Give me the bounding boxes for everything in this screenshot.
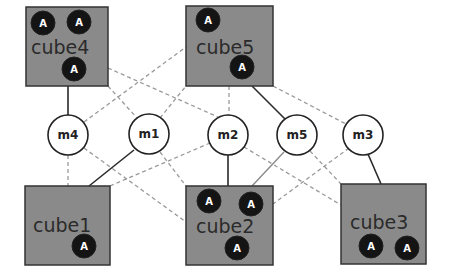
- svg-text:A: A: [75, 17, 83, 28]
- svg-text:A: A: [39, 18, 47, 29]
- agent-icon: A: [196, 8, 220, 32]
- svg-text:A: A: [80, 241, 88, 252]
- svg-text:A: A: [204, 15, 212, 26]
- svg-text:A: A: [403, 243, 411, 254]
- node-m3-label: m3: [353, 128, 374, 142]
- agent-icon: A: [230, 55, 254, 79]
- svg-text:A: A: [205, 196, 213, 207]
- agent-icon: A: [359, 234, 383, 258]
- edge-m1-cube2: [160, 152, 186, 186]
- node-m4-label: m4: [58, 128, 79, 142]
- node-m2[interactable]: m2: [208, 115, 248, 155]
- agent-icon: A: [239, 192, 263, 216]
- cube3-label: cube3: [350, 211, 408, 233]
- edge-m3-cube2: [273, 148, 349, 204]
- svg-text:A: A: [367, 241, 375, 252]
- svg-text:A: A: [70, 64, 78, 75]
- cube2-label: cube2: [196, 215, 254, 237]
- cube5-label: cube5: [196, 36, 254, 58]
- agent-icon: A: [225, 236, 249, 260]
- node-m2-label: m2: [218, 128, 239, 142]
- cube1-label: cube1: [33, 214, 91, 236]
- node-m1[interactable]: m1: [129, 114, 169, 154]
- node-m1-label: m1: [139, 127, 160, 141]
- edge-m5-cube2: [252, 152, 284, 186]
- agent-icon: A: [72, 234, 96, 258]
- cube3[interactable]: cube3 A A: [341, 184, 426, 264]
- agent-icon: A: [197, 189, 221, 213]
- node-m3[interactable]: m3: [343, 115, 383, 155]
- edge-cube4-m1: [108, 86, 137, 118]
- node-m5[interactable]: m5: [277, 115, 317, 155]
- edge-m3-cube3: [368, 154, 381, 184]
- cube4-label: cube4: [31, 36, 89, 58]
- agent-icon: A: [67, 10, 91, 34]
- node-m5-label: m5: [287, 128, 308, 142]
- cube2[interactable]: cube2 A A A: [186, 186, 273, 265]
- edge-m5-cube3: [310, 151, 341, 184]
- agent-icon: A: [31, 11, 55, 35]
- agent-icon: A: [62, 57, 86, 81]
- edge-cube5-m5: [252, 86, 285, 119]
- cube1[interactable]: cube1 A: [25, 186, 110, 265]
- cube5[interactable]: cube5 A A: [186, 6, 273, 86]
- edge-m1-cube5: [160, 86, 186, 118]
- node-m4[interactable]: m4: [48, 115, 88, 155]
- svg-text:A: A: [247, 199, 255, 210]
- agent-icon: A: [395, 236, 419, 260]
- svg-text:A: A: [233, 243, 241, 254]
- edge-m1-cube1: [89, 150, 134, 186]
- diagram-canvas: cube4 A A A cube5 A A cube1 A: [0, 0, 449, 279]
- cube4[interactable]: cube4 A A A: [26, 7, 108, 86]
- svg-text:A: A: [238, 62, 246, 73]
